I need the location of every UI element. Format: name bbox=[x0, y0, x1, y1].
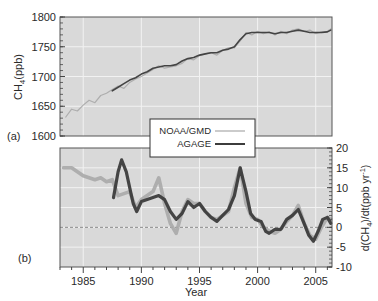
panel-b-y-axis-title: d(CH4)/dt(ppb yr-1) bbox=[358, 165, 374, 252]
y-tick-label: 0 bbox=[336, 221, 342, 233]
y-tick-label: 15 bbox=[336, 162, 348, 174]
x-axis-title: Year bbox=[185, 286, 208, 298]
x-tick-label: 2005 bbox=[303, 275, 327, 287]
panel-a-y-axis-title: CH4(ppb) bbox=[12, 54, 27, 100]
legend: NOAA/GMD AGAGE bbox=[150, 119, 255, 157]
y-tick-label: 20 bbox=[336, 142, 348, 154]
y-tick-label: 1700 bbox=[32, 71, 56, 83]
x-tick-label: 2000 bbox=[245, 275, 269, 287]
y-tick-label: 5 bbox=[336, 202, 342, 214]
legend-label-agage: AGAGE bbox=[177, 138, 211, 149]
y-tick-label: 1600 bbox=[32, 130, 56, 142]
panel-a-label: (a) bbox=[7, 130, 20, 142]
y-tick-label: 10 bbox=[336, 182, 348, 194]
panel-b: -10-505101520 19851990199520002005 (b) Y… bbox=[18, 142, 374, 298]
figure: 16001650170017501800 (a) CH4(ppb) -10-50… bbox=[0, 0, 378, 301]
y-tick-label: 1800 bbox=[32, 11, 56, 23]
x-axis: 19851990199520002005 bbox=[60, 267, 328, 287]
y-tick-label: 1750 bbox=[32, 41, 56, 53]
y-tick-label: -5 bbox=[336, 241, 346, 253]
legend-label-noaa: NOAA/GMD bbox=[159, 125, 211, 136]
y-tick-label: 1650 bbox=[32, 100, 56, 112]
y-tick-label: -10 bbox=[336, 261, 352, 273]
x-tick-label: 1990 bbox=[129, 275, 153, 287]
panel-b-label: (b) bbox=[18, 252, 31, 264]
x-tick-label: 1985 bbox=[71, 275, 95, 287]
